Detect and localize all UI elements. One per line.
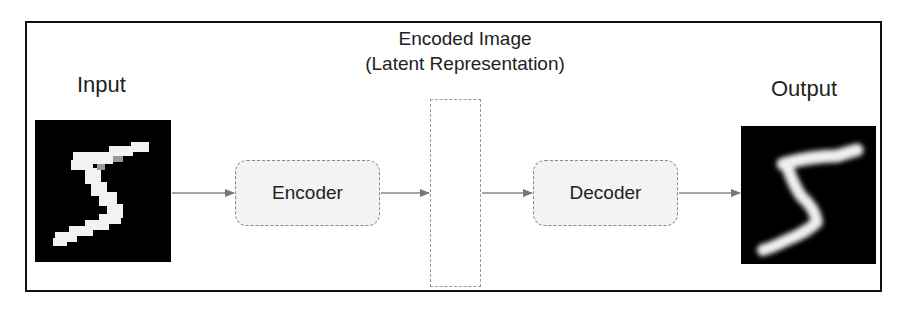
flow-arrows xyxy=(0,0,911,317)
